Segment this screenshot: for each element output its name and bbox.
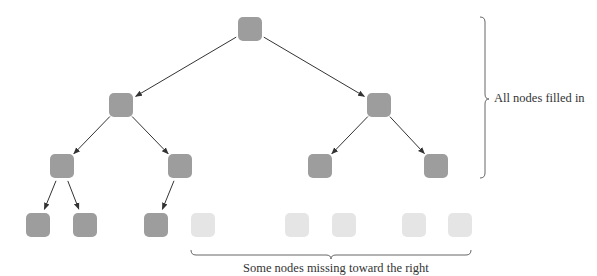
tree-node-filled bbox=[73, 213, 97, 237]
tree-node-filled bbox=[308, 154, 332, 178]
tree-node-filled bbox=[367, 93, 391, 117]
tree-node-missing bbox=[191, 213, 215, 237]
tree-edge-arrow bbox=[264, 37, 365, 96]
tree-edge-arrow bbox=[390, 117, 424, 154]
bottom-brace bbox=[191, 250, 471, 259]
tree-node-missing bbox=[332, 213, 356, 237]
tree-node-filled bbox=[424, 154, 448, 178]
tree-node-filled bbox=[109, 93, 133, 117]
tree-node-filled bbox=[238, 17, 262, 41]
bottom-annotation-label: Some nodes missing toward the right bbox=[243, 261, 429, 276]
tree-edge-arrow bbox=[332, 117, 368, 154]
tree-node-filled bbox=[50, 154, 74, 178]
right-annotation-label: All nodes filled in bbox=[494, 91, 585, 106]
tree-node-filled bbox=[26, 213, 50, 237]
tree-node-filled bbox=[168, 154, 192, 178]
tree-edge-arrow bbox=[136, 37, 237, 96]
tree-node-missing bbox=[448, 213, 472, 237]
right-brace bbox=[480, 17, 489, 178]
tree-nodes bbox=[26, 17, 472, 237]
tree-node-missing bbox=[285, 213, 309, 237]
tree-node-missing bbox=[402, 213, 426, 237]
tree-diagram bbox=[0, 0, 597, 276]
tree-edge-arrow bbox=[44, 181, 56, 209]
tree-edge-arrow bbox=[132, 117, 168, 154]
tree-edge-arrow bbox=[74, 117, 110, 154]
tree-node-filled bbox=[144, 213, 168, 237]
tree-edge-arrow bbox=[68, 181, 79, 209]
tree-edge-arrow bbox=[162, 181, 174, 209]
tree-edges bbox=[44, 37, 424, 209]
